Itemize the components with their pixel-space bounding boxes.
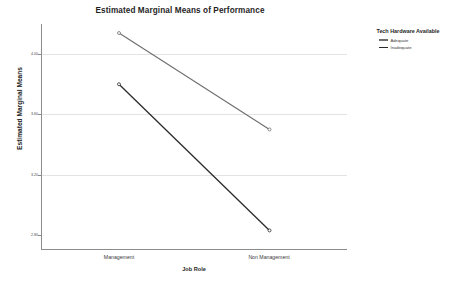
chart-container: Estimated Marginal Means of Performance … (0, 0, 450, 282)
legend-item-adequate[interactable]: Adequate (366, 37, 450, 43)
data-point (268, 229, 271, 232)
data-point (268, 128, 271, 131)
series-line-adequate (119, 33, 270, 129)
y-tick-label: 3.20 (20, 173, 38, 177)
y-tick-label: 4.00 (20, 52, 38, 56)
x-axis-title: Job Role (41, 266, 347, 272)
legend-swatch-icon (379, 39, 388, 40)
series-inadequate (118, 83, 272, 232)
legend-item-label: Adequate (391, 38, 409, 43)
data-point (118, 83, 121, 86)
series-adequate (118, 32, 272, 131)
series-plot (41, 24, 347, 250)
legend-item-label: Inadequate (391, 45, 412, 50)
legend-item-inadequate[interactable]: Inadequate (366, 45, 450, 51)
x-tick-label-management: Management (104, 254, 134, 260)
y-axis-tick-labels: 4.00 3.60 3.20 2.80 (20, 24, 38, 250)
legend-swatch-icon (379, 47, 388, 48)
y-tick-label: 2.80 (20, 233, 38, 237)
legend: Tech Hardware Available Adequate Inadequ… (366, 28, 450, 51)
y-tick-label: 3.60 (20, 112, 38, 116)
chart-title: Estimated Marginal Means of Performance (0, 6, 360, 15)
series-line-inadequate (119, 84, 270, 230)
x-tick-label-non-management: Non Management (248, 254, 289, 260)
data-point (118, 32, 121, 35)
plot-area (41, 24, 347, 250)
legend-title: Tech Hardware Available (366, 28, 450, 34)
